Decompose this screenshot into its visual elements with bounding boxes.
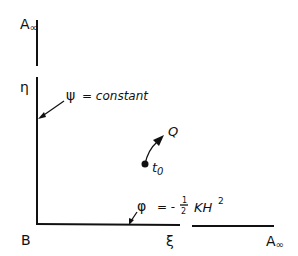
label-phi-superscript: 2 xyxy=(218,196,224,206)
label-eta: η xyxy=(20,79,29,95)
label-xi: ξ xyxy=(166,233,174,249)
label-a-infinity-bottom: A∞ xyxy=(266,233,284,250)
label-phi-kh: KH xyxy=(194,200,213,215)
label-phi-equals: = - xyxy=(157,200,175,214)
label-phi-frac-den: 2 xyxy=(181,207,186,216)
label-phi: φ xyxy=(137,198,146,214)
label-psi: ψ xyxy=(66,87,75,103)
label-phi-frac-num: 1 xyxy=(182,196,187,205)
label-a-infinity-top: A∞ xyxy=(20,16,38,33)
psi-arrowhead-icon xyxy=(38,112,46,119)
diagram-canvas: A∞ η B ξ A∞ ψ = constant φ = - 1 2 KH 2 … xyxy=(0,0,298,256)
label-t0: t0 xyxy=(152,160,163,177)
label-psi-constant: = constant xyxy=(82,89,149,103)
horizontal-axis-left xyxy=(36,224,180,225)
label-origin-b: B xyxy=(21,232,31,248)
label-q: Q xyxy=(168,124,178,139)
